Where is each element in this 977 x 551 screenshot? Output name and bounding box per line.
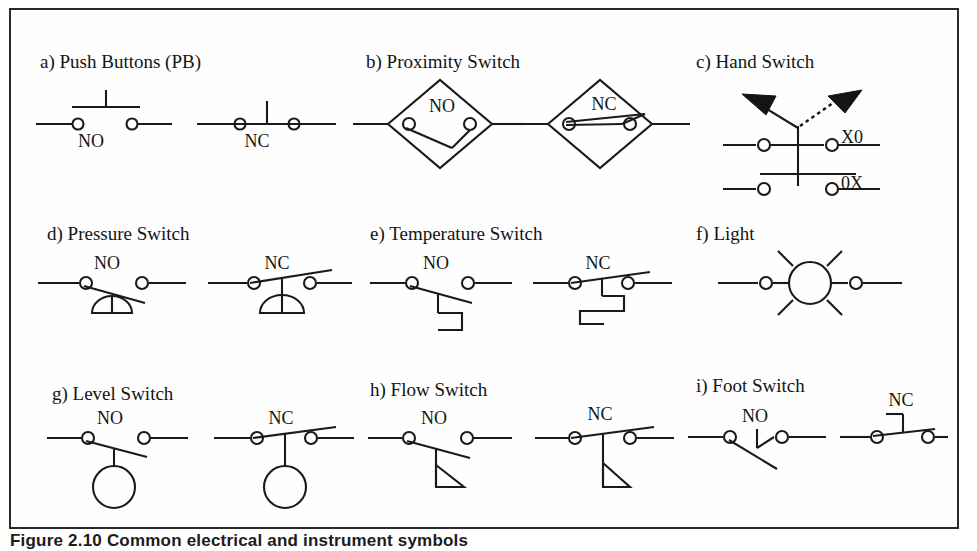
label-pb-nc: NC bbox=[244, 131, 269, 151]
symbol-ps-nc: NC bbox=[208, 253, 352, 313]
group-level-switch: g) Level Switch NO NC bbox=[47, 383, 354, 508]
group-label-proximity-switch: b) Proximity Switch bbox=[366, 51, 521, 73]
group-label-flow-switch: h) Flow Switch bbox=[370, 379, 488, 401]
symbol-ls-no: NO bbox=[47, 408, 188, 508]
symbol-pb-no: NO bbox=[36, 90, 172, 151]
group-light: f) Light bbox=[696, 223, 902, 315]
label-fs-nc: NC bbox=[587, 404, 612, 424]
label-ps-nc: NC bbox=[264, 253, 289, 273]
symbol-foot-no: NO bbox=[688, 406, 826, 469]
label-prox-nc: NC bbox=[591, 94, 616, 114]
figure-caption: Figure 2.10 Common electrical and instru… bbox=[10, 531, 468, 551]
symbol-ps-no: NO bbox=[38, 253, 186, 313]
group-flow-switch: h) Flow Switch NO NC bbox=[368, 379, 674, 487]
label-ls-no: NO bbox=[97, 408, 123, 428]
group-label-hand-switch: c) Hand Switch bbox=[696, 51, 815, 73]
symbol-ts-no: NO bbox=[370, 253, 512, 330]
symbol-ts-nc: NC bbox=[533, 253, 672, 324]
label-fs-no: NO bbox=[421, 408, 447, 428]
symbol-hs-0x: 0X bbox=[723, 173, 880, 195]
label-hs-x0: X0 bbox=[841, 127, 863, 147]
symbol-pb-nc: NC bbox=[197, 101, 336, 151]
label-hs-0x: 0X bbox=[841, 173, 863, 193]
group-label-light: f) Light bbox=[696, 223, 755, 245]
symbol-prox-no: NO bbox=[353, 80, 524, 168]
group-hand-switch: c) Hand Switch X0 0X bbox=[696, 51, 880, 195]
group-push-buttons: a) Push Buttons (PB) NO NC bbox=[36, 51, 336, 151]
label-ps-no: NO bbox=[94, 253, 120, 273]
symbol-fs-no: NO bbox=[368, 408, 512, 487]
group-label-pressure-switch: d) Pressure Switch bbox=[47, 223, 190, 245]
group-label-foot-switch: i) Foot Switch bbox=[696, 375, 805, 397]
symbol-prox-nc: NC bbox=[513, 80, 690, 168]
group-label-push-buttons: a) Push Buttons (PB) bbox=[40, 51, 201, 73]
group-proximity-switch: b) Proximity Switch NO bbox=[353, 51, 690, 168]
symbol-light-lamp bbox=[718, 251, 902, 315]
label-foot-nc: NC bbox=[888, 390, 913, 410]
label-pb-no: NO bbox=[78, 131, 104, 151]
symbol-ls-nc: NC bbox=[214, 408, 354, 508]
group-temperature-switch: e) Temperature Switch NO bbox=[370, 223, 672, 330]
symbol-fs-nc: NC bbox=[535, 404, 674, 487]
symbol-hs-x0: X0 bbox=[723, 127, 880, 151]
label-ls-nc: NC bbox=[268, 408, 293, 428]
group-label-temperature-switch: e) Temperature Switch bbox=[370, 223, 543, 245]
group-label-level-switch: g) Level Switch bbox=[52, 383, 174, 405]
label-ts-nc: NC bbox=[585, 253, 610, 273]
symbol-foot-nc: NC bbox=[840, 390, 948, 443]
group-pressure-switch: d) Pressure Switch NO bbox=[38, 223, 352, 313]
group-foot-switch: i) Foot Switch NO NC bbox=[688, 375, 948, 469]
label-ts-no: NO bbox=[423, 253, 449, 273]
label-prox-no: NO bbox=[429, 96, 455, 116]
label-foot-no: NO bbox=[742, 406, 768, 426]
